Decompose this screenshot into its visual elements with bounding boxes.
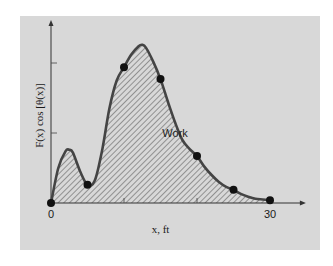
area-label: Work <box>162 127 188 139</box>
data-point <box>193 152 201 160</box>
data-point <box>84 181 92 189</box>
x-axis-arrow <box>300 201 306 206</box>
chart: 030 Work x, ft F(x) cos [θ(x)] <box>0 0 333 266</box>
y-axis-arrow <box>49 20 54 26</box>
data-point <box>47 199 55 207</box>
x-tick-label: 30 <box>264 208 276 220</box>
data-point <box>230 186 238 194</box>
y-axis-title: F(x) cos [θ(x)] <box>33 83 46 148</box>
data-point <box>266 196 274 204</box>
x-tick-label: 0 <box>48 208 54 220</box>
data-point <box>120 63 128 71</box>
data-point <box>157 75 165 83</box>
x-axis-title: x, ft <box>152 223 170 235</box>
